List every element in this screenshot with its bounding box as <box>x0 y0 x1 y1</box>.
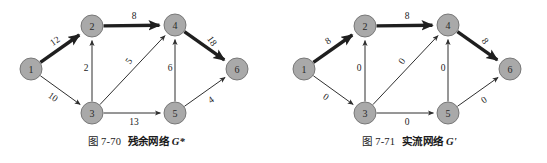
node-label: 6 <box>235 64 240 75</box>
edge-label-n3-n4: 0 <box>397 56 408 66</box>
caption-number: 图 7-70 <box>88 136 121 147</box>
edge-n1-n2 <box>313 35 352 62</box>
edge-n4-n6 <box>184 32 224 60</box>
graph-node-4: 4 <box>164 14 186 36</box>
edge-label-n4-n6: 8 <box>480 36 491 46</box>
edge-n5-n6 <box>457 77 498 106</box>
node-label: 5 <box>446 108 451 119</box>
edge-label-n3-n2: 2 <box>84 63 89 73</box>
node-label: 3 <box>363 108 368 119</box>
edge-label-n1-n2: 8 <box>323 35 333 46</box>
edge-label-n5-n4: 0 <box>441 63 446 73</box>
edge-label-n3-n5: 13 <box>129 117 139 127</box>
figure-page: 1210825136418123456 图 7-70残余网络 G* 808000… <box>0 0 547 163</box>
caption-symbol: G* <box>172 136 185 147</box>
edge-layer <box>40 25 225 113</box>
edge-n1-n2 <box>40 35 79 62</box>
graph-node-2: 2 <box>81 15 103 37</box>
node-label: 1 <box>29 64 34 75</box>
figure-actual-flow-network: 808000008123456 图 7-71实流网络 G' <box>273 0 546 163</box>
edge-label-n1-n2: 12 <box>48 34 62 48</box>
edge-layer <box>313 25 498 113</box>
graph-node-4: 4 <box>437 14 459 36</box>
graph-node-3: 3 <box>81 102 103 124</box>
caption-title: 残余网络 <box>128 136 169 147</box>
edge-n5-n6 <box>184 77 225 106</box>
graph-canvas-residual: 1210825136418123456 <box>0 0 273 136</box>
edge-label-n1-n3: 10 <box>46 90 60 104</box>
edge-label-n3-n4: 5 <box>124 56 135 66</box>
graph-node-2: 2 <box>354 15 376 37</box>
node-label: 4 <box>446 20 451 31</box>
edge-label-n1-n3: 0 <box>321 92 331 103</box>
node-label: 3 <box>90 108 95 119</box>
node-label: 6 <box>508 64 513 75</box>
graph-canvas-actual-flow: 808000008123456 <box>273 0 546 136</box>
edge-label-n5-n4: 6 <box>168 63 173 73</box>
edge-label-n5-n6: 0 <box>479 94 489 105</box>
node-label: 2 <box>90 21 95 32</box>
edge-n4-n6 <box>457 32 497 60</box>
graph-node-6: 6 <box>226 58 248 80</box>
edge-label-n2-n4: 8 <box>405 11 410 21</box>
graph-node-3: 3 <box>354 102 376 124</box>
edge-label-n3-n5: 0 <box>405 117 410 127</box>
caption-title: 实流网络 <box>402 136 443 147</box>
caption-number: 图 7-71 <box>362 136 395 147</box>
edge-label-n5-n6: 4 <box>206 94 216 105</box>
graph-node-5: 5 <box>164 102 186 124</box>
edge-label-n2-n4: 8 <box>132 11 137 21</box>
figure-caption-residual: 图 7-70残余网络 G* <box>0 133 273 148</box>
figure-caption-actual-flow: 图 7-71实流网络 G' <box>273 133 546 148</box>
node-label: 4 <box>173 20 178 31</box>
graph-node-1: 1 <box>20 58 42 80</box>
edge-n2-n4 <box>376 25 432 26</box>
node-label: 5 <box>173 108 178 119</box>
edge-n3-n4 <box>373 36 438 105</box>
graph-node-5: 5 <box>437 102 459 124</box>
node-label: 2 <box>363 21 368 32</box>
edge-n2-n4 <box>103 25 159 26</box>
caption-symbol: G' <box>446 136 457 147</box>
graph-node-1: 1 <box>293 58 315 80</box>
edge-label-layer: 1210825136418 <box>46 11 219 127</box>
edge-n3-n4 <box>100 36 165 105</box>
edge-n1-n3 <box>40 76 80 105</box>
node-label: 1 <box>302 64 307 75</box>
graph-node-6: 6 <box>499 58 521 80</box>
edge-n1-n3 <box>313 76 353 105</box>
figure-residual-network: 1210825136418123456 图 7-70残余网络 G* <box>0 0 273 163</box>
edge-label-n3-n2: 0 <box>357 63 362 73</box>
